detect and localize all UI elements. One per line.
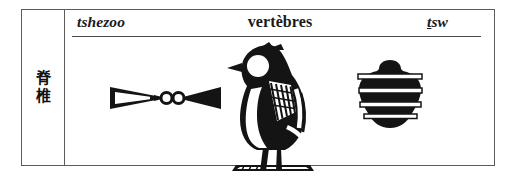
gloss-cjk-text: 脊椎 xyxy=(35,70,52,105)
transliteration-right-label: tsw xyxy=(427,11,448,33)
glyph-row xyxy=(66,38,494,165)
transliteration-right-suffix: sw xyxy=(431,13,448,30)
vertebra-glyph xyxy=(351,56,429,134)
gloss-cell: 脊椎 xyxy=(22,10,64,165)
knot-bowtie-glyph xyxy=(108,80,223,116)
column-divider xyxy=(64,9,65,166)
dictionary-entry-page: 脊椎 tshezoo vertèbres tsw xyxy=(0,0,517,182)
header-row: tshezoo vertèbres tsw xyxy=(66,11,494,35)
bird-glyph xyxy=(221,37,319,169)
